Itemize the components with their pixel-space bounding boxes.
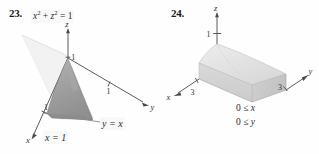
- constraint-y-zero: 0: [236, 117, 241, 127]
- x-axis-tick-label-23: 1: [44, 103, 48, 112]
- y-axis-24: [286, 78, 304, 90]
- y-axis-tick-label-23: 1: [107, 87, 111, 96]
- label-y-equals-x: y = x: [100, 117, 125, 130]
- eq23-rhs: 1: [68, 11, 73, 21]
- eq23-exp-x: 2: [37, 9, 40, 16]
- x-axis-label-23: x: [25, 135, 30, 145]
- eq23-equals: =: [60, 11, 65, 21]
- x-axis-tick-label-24: 3: [191, 88, 195, 97]
- constraint-x-zero: 0: [236, 103, 241, 113]
- eq23-plus: +: [43, 11, 48, 21]
- z-axis-label-24: z: [213, 3, 218, 13]
- textbook-figure-page: 23. z 1: [0, 0, 319, 154]
- figure-24-graphic: z 1 x 3 y 3: [160, 0, 319, 154]
- constraint-y: 0 ≤ y: [236, 117, 255, 127]
- y-axis-arrowhead-23: [142, 102, 149, 106]
- constraint-y-var: y: [251, 117, 255, 127]
- eq23-exp-z: 2: [54, 9, 57, 16]
- figure-23-graphic: z 1 y 1 x 1: [0, 0, 160, 154]
- label-x-equals-1: x = 1: [43, 131, 68, 144]
- y-axis-label-24: y: [308, 66, 313, 76]
- equation-23: x2 + z2 = 1: [31, 10, 74, 23]
- constraint-x-var: x: [251, 103, 255, 113]
- figure-24: 24. z 1: [160, 0, 319, 154]
- x-axis-arrowhead-23: [32, 134, 37, 140]
- z-axis-tick-label-24: 1: [207, 30, 211, 39]
- x-axis-label-24: x: [166, 92, 171, 102]
- x-axis-tick-mark-24: [195, 78, 198, 83]
- constraint-x-rel: ≤: [243, 103, 248, 113]
- figure-23: 23. z 1: [0, 0, 160, 154]
- constraint-y-rel: ≤: [243, 117, 248, 127]
- y-axis-arrowhead-24: [302, 75, 309, 81]
- x-axis-24: [178, 79, 199, 93]
- constraint-x: 0 ≤ x: [236, 103, 255, 113]
- x-axis-arrowhead-24: [174, 92, 182, 96]
- y-axis-tick-label-24: 3: [278, 83, 282, 92]
- y-axis-label-23: y: [150, 102, 155, 112]
